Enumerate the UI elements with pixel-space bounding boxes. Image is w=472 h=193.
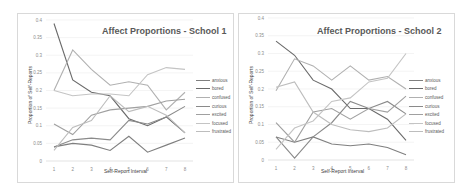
legend-item-excited: excited — [196, 110, 231, 119]
legend-item-confused: confused — [409, 93, 444, 102]
legend: anxious bored confused curious excited f… — [409, 76, 444, 136]
svg-text:0.35: 0.35 — [33, 35, 42, 40]
svg-text:3: 3 — [312, 166, 315, 171]
svg-text:0.4: 0.4 — [258, 16, 265, 21]
svg-text:0.15: 0.15 — [33, 106, 42, 111]
legend-item-curious: curious — [409, 102, 444, 111]
series-line-bored — [276, 41, 406, 140]
legend-item-frustrated: frustrated — [409, 128, 444, 137]
series-line-frustrated — [54, 96, 185, 151]
svg-text:0.4: 0.4 — [36, 18, 43, 23]
svg-text:1: 1 — [275, 166, 278, 171]
y-axis-label: Proportion of Self-Reports — [248, 55, 254, 135]
svg-text:0.1: 0.1 — [36, 123, 43, 128]
legend-item-confused: confused — [196, 93, 231, 102]
svg-text:2: 2 — [293, 166, 296, 171]
svg-text:0.2: 0.2 — [36, 88, 43, 93]
series-line-focused — [54, 68, 185, 96]
chart-school-1: 00.050.10.150.20.250.30.350.412345678 Af… — [17, 13, 234, 183]
svg-text:1: 1 — [53, 167, 56, 172]
legend-item-frustrated: frustrated — [196, 128, 231, 137]
x-axis-label: Self-Report Interval — [321, 168, 364, 174]
legend-item-curious: curious — [196, 102, 231, 111]
svg-text:0.05: 0.05 — [33, 141, 42, 146]
series-line-anxious — [54, 136, 185, 152]
y-axis-label: Proportion of Self-Reports — [27, 55, 33, 135]
svg-text:0: 0 — [39, 159, 42, 164]
svg-text:0.35: 0.35 — [255, 33, 264, 38]
series-line-bored — [54, 24, 185, 133]
series-line-curious — [276, 101, 406, 158]
svg-text:0.25: 0.25 — [255, 69, 264, 74]
svg-text:0.15: 0.15 — [255, 104, 264, 109]
svg-text:0.05: 0.05 — [255, 140, 264, 145]
series-line-anxious — [276, 137, 406, 155]
legend: anxious bored confused curious excited f… — [196, 76, 231, 136]
svg-text:6: 6 — [368, 166, 371, 171]
legend-item-bored: bored — [409, 85, 444, 94]
svg-text:3: 3 — [90, 167, 93, 172]
svg-text:8: 8 — [405, 166, 408, 171]
svg-text:0.3: 0.3 — [36, 53, 43, 58]
svg-text:8: 8 — [184, 167, 187, 172]
legend-item-focused: focused — [409, 119, 444, 128]
legend-item-anxious: anxious — [196, 76, 231, 85]
svg-text:0.1: 0.1 — [258, 122, 265, 127]
legend-item-anxious: anxious — [409, 76, 444, 85]
svg-text:7: 7 — [165, 167, 168, 172]
svg-text:0.2: 0.2 — [258, 87, 265, 92]
legend-item-bored: bored — [196, 85, 231, 94]
svg-text:2: 2 — [71, 167, 74, 172]
legend-item-focused: focused — [196, 119, 231, 128]
svg-text:0: 0 — [261, 158, 264, 163]
chart-title: Affect Proportions - School 2 — [317, 26, 442, 36]
svg-text:0.3: 0.3 — [258, 51, 265, 56]
chart-school-2: 00.050.10.150.20.250.30.350.412345678 Af… — [238, 13, 455, 183]
chart-title: Affect Proportions - School 1 — [102, 26, 227, 36]
x-axis-label: Self-Report Interval — [104, 168, 147, 174]
series-line-confused — [276, 59, 406, 91]
legend-item-excited: excited — [409, 110, 444, 119]
svg-text:0.25: 0.25 — [33, 70, 42, 75]
svg-text:7: 7 — [386, 166, 389, 171]
